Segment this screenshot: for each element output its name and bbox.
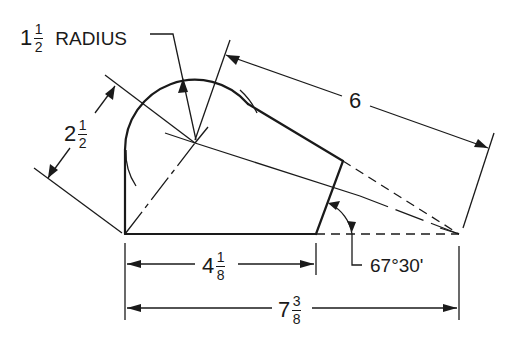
radius-leader: [150, 34, 196, 140]
slant-height-fraction: 1 2: [78, 118, 87, 150]
radius-suffix: RADIUS: [55, 29, 127, 48]
base-length-fraction: 1 8: [216, 250, 225, 282]
base-length-den: 8: [217, 268, 225, 283]
slant-height-num: 1: [79, 118, 87, 133]
overall-length-fraction: 3 8: [292, 294, 301, 326]
angle-label: 67°30': [370, 256, 424, 275]
overall-length-num: 3: [293, 294, 301, 309]
base-length-label: 4 1 8: [202, 250, 225, 282]
dimension-2-1-2: [34, 75, 195, 233]
overall-length-label: 7 3 8: [278, 294, 301, 326]
base-length-whole: 4: [202, 255, 214, 277]
top-length-value: 6: [349, 90, 361, 112]
overall-length-den: 8: [293, 312, 301, 327]
object-outline: [125, 80, 343, 234]
angle-value: 67°30': [370, 256, 424, 275]
radius-label: 1 1 2 RADIUS: [20, 22, 127, 54]
top-length-label: 6: [349, 90, 361, 112]
radius-whole: 1: [20, 27, 32, 49]
base-length-num: 1: [217, 250, 225, 265]
slant-height-label: 2 1 2: [64, 118, 87, 150]
dimension-6: [195, 40, 494, 228]
radius-num: 1: [35, 22, 43, 37]
slant-height-whole: 2: [64, 123, 76, 145]
slant-height-den: 2: [79, 136, 87, 151]
construction-lines: [125, 90, 459, 234]
angle-dimension: [328, 201, 362, 265]
overall-length-whole: 7: [278, 299, 290, 321]
radius-den: 2: [35, 40, 43, 55]
radius-fraction: 1 2: [34, 22, 43, 54]
